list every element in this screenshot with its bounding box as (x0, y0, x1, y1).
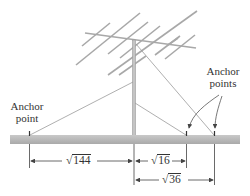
ground (10, 135, 240, 144)
diagram-canvas (0, 0, 250, 196)
mast (133, 40, 136, 143)
label-anchor-point: Anchor point (4, 100, 50, 124)
guy-wires (30, 44, 214, 135)
measurement-sqrt-144: √144 (64, 154, 93, 166)
antenna-diagram: Anchor point Anchor points √144 √16 √36 (0, 0, 250, 196)
label-anchor-points: Anchor points (200, 65, 246, 89)
pointer-arrow-far (215, 96, 222, 128)
antenna-array (76, 11, 197, 75)
measurement-sqrt-16: √16 (149, 154, 172, 166)
measurement-sqrt-36: √36 (160, 173, 183, 185)
